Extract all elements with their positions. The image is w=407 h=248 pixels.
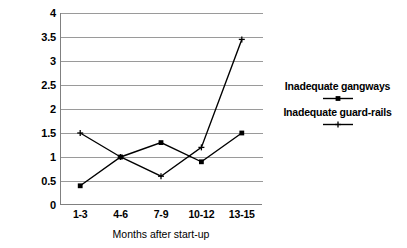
y-tick-label: 3.5 <box>22 32 56 43</box>
legend-entry[interactable]: Inadequate guard-rails <box>268 106 407 130</box>
square-marker-icon <box>159 140 164 145</box>
y-tick-label: 1 <box>22 152 56 163</box>
series-line <box>80 39 242 176</box>
legend-label: Inadequate guard-rails <box>268 106 407 119</box>
x-axis: 1-34-67-910-1213-15 <box>60 208 262 226</box>
legend-label: Inadequate gangways <box>268 80 407 93</box>
y-tick-label: 0 <box>22 200 56 211</box>
x-axis-title: Months after start-up <box>60 228 262 240</box>
legend-entry[interactable]: Inadequate gangways <box>268 80 407 104</box>
y-tick-label: 0.5 <box>22 176 56 187</box>
square-marker-icon <box>78 183 83 188</box>
series-layer <box>60 13 262 205</box>
plus-marker-icon <box>77 130 83 136</box>
square-marker-icon <box>199 159 204 164</box>
x-tick-label: 1-3 <box>73 208 88 220</box>
x-tick-label: 13-15 <box>229 208 255 220</box>
x-tick-label: 10-12 <box>188 208 214 220</box>
y-tick-label: 2.5 <box>22 80 56 91</box>
y-tick-label: 3 <box>22 56 56 67</box>
plus-marker-icon <box>335 122 341 128</box>
square-marker-icon <box>335 96 340 101</box>
y-tick-label: 1.5 <box>22 128 56 139</box>
plus-marker-icon <box>268 119 407 130</box>
x-tick-label: 7-9 <box>154 208 169 220</box>
square-marker-icon <box>239 131 244 136</box>
square-marker-icon <box>268 93 407 104</box>
y-tick-label: 2 <box>22 104 56 115</box>
plus-marker-icon <box>239 36 245 42</box>
y-tick-label: 4 <box>22 8 56 19</box>
y-axis: 00.511.522.533.54 <box>18 0 56 248</box>
chart-legend: Inadequate gangwaysInadequate guard-rail… <box>268 80 407 132</box>
line-chart: 00.511.522.533.54 1-34-67-910-1213-15 Mo… <box>0 0 407 248</box>
x-tick-label: 4-6 <box>113 208 128 220</box>
